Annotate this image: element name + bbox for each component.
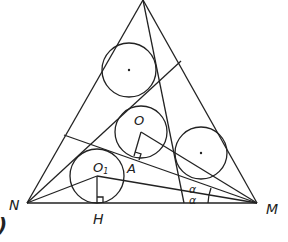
diagram-canvas: N M H O O1 A α α )	[0, 0, 288, 242]
side-N-apex	[27, 0, 143, 203]
side-M-apex	[143, 0, 257, 203]
label-A: A	[126, 161, 136, 176]
segment-O-M	[141, 132, 257, 203]
corner-fragment: )	[0, 213, 7, 237]
cevian-apex	[143, 0, 184, 203]
right-circle-center-dot	[200, 152, 202, 154]
label-N: N	[9, 197, 20, 213]
label-O: O	[134, 113, 144, 128]
cevian-N	[27, 61, 181, 203]
segment-N-O1	[27, 176, 97, 203]
top-circle-center-dot	[128, 69, 130, 71]
label-M: M	[266, 201, 278, 217]
label-alpha-lower: α	[189, 194, 197, 207]
label-O1: O1	[93, 160, 108, 176]
label-H: H	[93, 211, 104, 227]
right-angle-A	[135, 152, 141, 160]
geometry-diagram: N M H O O1 A α α )	[0, 0, 288, 242]
